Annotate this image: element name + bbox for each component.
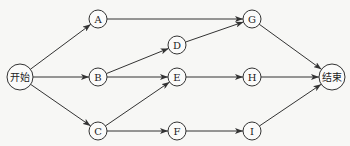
edge-start-A [30,24,90,69]
node-B: B [89,68,107,86]
node-label: F [174,126,181,137]
node-I: I [243,122,261,140]
node-start: 开始 [7,64,33,90]
edge-start-C [31,84,91,125]
node-label: E [173,72,180,83]
node-A: A [89,10,107,28]
edge-I-end [259,84,321,126]
edge-D-G [186,22,244,42]
nodes: 开始ABCDEFGHI结束 [7,10,345,140]
node-label: C [94,126,102,137]
edge-B-D [106,48,168,73]
node-label: 开始 [10,71,30,83]
flow-diagram: 开始ABCDEFGHI结束 [0,0,350,146]
node-G: G [243,10,261,28]
node-H: H [243,68,261,86]
node-C: C [89,122,107,140]
node-label: 结束 [322,71,342,83]
node-label: D [173,40,181,51]
node-label: G [248,14,256,25]
node-label: H [248,72,257,83]
node-label: B [94,72,101,83]
node-E: E [168,68,186,86]
edge-G-end [259,24,321,69]
edge-C-E [105,82,169,126]
node-end: 结束 [319,64,345,90]
node-label: A [93,14,102,25]
node-F: F [168,122,186,140]
node-D: D [168,36,186,54]
node-label: I [250,126,254,137]
